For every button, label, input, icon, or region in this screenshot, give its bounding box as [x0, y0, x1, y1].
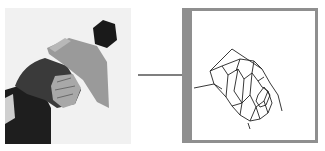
output-sketch-frame [182, 8, 318, 143]
line-sketch-image [192, 11, 315, 140]
input-photo [5, 8, 131, 144]
person-with-cap-image [5, 8, 131, 144]
